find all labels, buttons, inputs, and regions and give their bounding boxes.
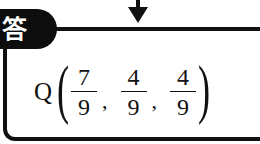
answer-label-text: 答 — [2, 17, 27, 42]
fraction-denominator: 9 — [76, 95, 92, 119]
fraction-x: 7 9 — [71, 65, 97, 120]
fraction-denominator: 9 — [126, 95, 142, 119]
fraction-y: 4 9 — [121, 65, 147, 120]
fraction-z: 4 9 — [170, 65, 196, 120]
fraction-denominator: 9 — [175, 95, 191, 119]
fraction-numerator: 4 — [175, 65, 191, 89]
answer-label-badge: 答 — [0, 9, 57, 49]
fraction-bar — [71, 91, 97, 93]
fraction-numerator: 4 — [126, 65, 142, 89]
header-rule — [55, 27, 260, 31]
fraction-numerator: 7 — [76, 65, 92, 89]
fraction-bar — [121, 91, 147, 93]
down-arrow-icon — [127, 0, 149, 24]
answer-formula: Q ( 7 9 , 4 9 , 4 9 ) — [34, 58, 215, 126]
comma-separator: , — [102, 88, 108, 114]
point-name: Q — [34, 78, 52, 106]
fraction-bar — [170, 91, 196, 93]
comma-separator: , — [152, 88, 158, 114]
open-parenthesis: ( — [57, 56, 69, 122]
close-parenthesis: ) — [198, 56, 210, 122]
